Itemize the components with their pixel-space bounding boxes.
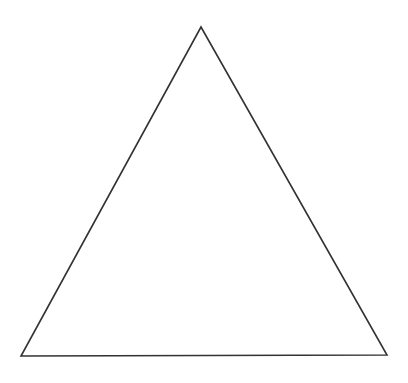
triangle-diagram (0, 0, 408, 383)
diagram-canvas (0, 0, 408, 383)
triangle-outline (21, 27, 387, 356)
